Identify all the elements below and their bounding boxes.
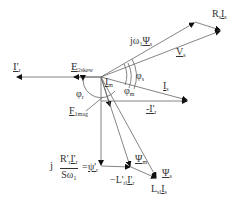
label-f1mag: F1mag	[69, 106, 88, 119]
label-is: Is	[163, 81, 169, 94]
label-e2skew: E2skew	[71, 61, 93, 75]
label-psi-s-sub: s	[169, 173, 171, 179]
label-phi-m-sub: m	[130, 91, 135, 97]
label-f1mag-sub: 1mag	[75, 111, 88, 117]
label-minus-ir-sub: r	[154, 109, 156, 115]
vector-vs	[101, 31, 220, 77]
phasor-diagram: I'r E2skew jω1Ψs RsIs Vs φs Im φm Is φr …	[0, 0, 243, 204]
label-frac-num2-sub: r	[76, 159, 78, 165]
label-eq: =	[82, 162, 88, 172]
label-fraction-den: Sω1	[60, 169, 78, 183]
label-frac-den-sub: 1	[73, 175, 76, 181]
label-j: j	[50, 160, 53, 170]
label-jw-psi-s: jω1Ψs	[130, 36, 152, 49]
label-ir: I'r	[13, 61, 21, 75]
label-psi-s-top-sub: s	[150, 41, 152, 47]
label-lrl-main: −L'	[110, 174, 124, 185]
label-im-sub: m	[108, 82, 113, 88]
label-minus-ir: -I'r	[146, 104, 156, 117]
label-psi-s-top-main: Ψ	[142, 35, 149, 46]
label-psi-m-sub: m	[142, 159, 147, 165]
label-im: Im	[105, 77, 113, 90]
label-phi-s: φs	[136, 71, 144, 84]
label-lsl-is: LslIs	[151, 184, 167, 197]
label-ir-sub: r	[19, 67, 21, 73]
vector-lsl-is	[131, 167, 156, 178]
label-phi-r: φr	[76, 89, 84, 102]
label-rs-is: RsIs	[212, 9, 227, 22]
label-phi-s-sub: s	[142, 76, 144, 82]
label-psi-s: Ψs	[162, 168, 172, 181]
label-j-main: j	[50, 159, 53, 171]
vector-rs-is	[195, 22, 220, 30]
label-frac-den-main: Sω	[61, 169, 73, 180]
label-psi-r-sub: r	[96, 167, 98, 173]
label-is-sub: s	[166, 86, 168, 92]
label-lrl-ir: −L'rlI'r	[110, 175, 134, 188]
label-e2skew-main: E	[71, 60, 78, 72]
label-eq-main: =	[82, 161, 88, 172]
label-rs-main: R	[212, 8, 219, 19]
label-jw-main: jω	[130, 35, 139, 46]
label-vs-sub: s	[183, 52, 185, 58]
vector-lrl-ir	[101, 166, 130, 167]
label-phi-m: φm	[124, 86, 134, 99]
leader-f1mag	[86, 97, 103, 111]
label-rs-is-sub: s	[224, 14, 226, 20]
label-psi-r-main: ψ'	[88, 161, 96, 172]
label-vs: Vs	[176, 47, 186, 60]
label-e2skew-sub: 2skew	[78, 67, 93, 73]
label-psi-m: Ψm	[135, 154, 147, 167]
label-lrl-i-sub: r	[132, 180, 134, 186]
label-phi-r-sub: r	[82, 94, 84, 100]
label-psi-r: ψ'r	[88, 162, 98, 175]
label-lsl-i-sub: s	[164, 189, 166, 195]
label-fraction: R'rI'r Sω1	[60, 154, 78, 183]
label-fraction-num: R'rI'r	[60, 154, 78, 169]
